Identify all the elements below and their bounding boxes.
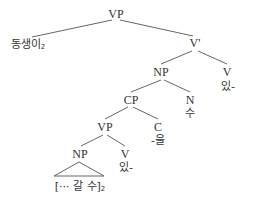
np-inner-text: [··· 갈 수] [55,180,101,193]
node-c: C [154,121,162,134]
branch-np-n [164,80,190,92]
node-vp-inner: VP [97,121,112,134]
node-cp: CP [124,94,139,107]
node-vp-root: VP [108,8,123,21]
branch-vbar-np [161,51,192,64]
triangle-np [54,162,104,176]
word-v-top: 있- [221,80,235,93]
branch-cp-vp [105,107,128,119]
word-np-inner: [··· 갈 수]2 [55,180,106,196]
node-n: N [186,94,195,107]
node-vbar: V' [190,37,201,50]
subject-text: 동생이 [11,38,41,51]
subject-index: 2 [41,43,45,51]
node-np-inner: NP [72,148,87,161]
word-n: 수 [185,107,195,120]
word-v-inner: 있- [119,161,133,174]
node-np-top: NP [153,66,168,79]
branch-np-cp [131,80,161,92]
branch-vp-np [81,135,103,146]
node-subject: 동생이2 [11,38,45,54]
branch-vp-v [107,135,125,146]
node-v-inner: V [121,148,130,161]
branch-vbar-v [198,51,227,64]
branch-vp-subject [32,20,112,37]
branch-vp-vbar [120,20,193,36]
word-c: -을 [151,134,165,147]
branch-cp-c [133,107,158,119]
np-inner-index: 2 [101,185,105,193]
node-v-top: V [223,66,232,79]
